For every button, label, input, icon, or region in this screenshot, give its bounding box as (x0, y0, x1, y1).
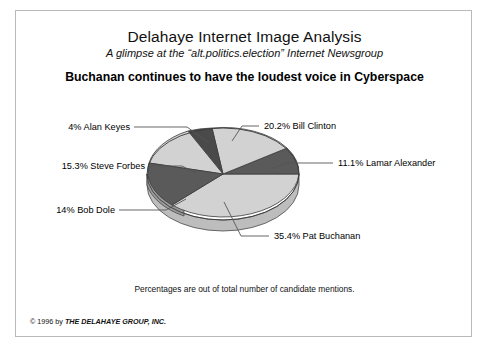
slide-page: Delahaye Internet Image Analysis A glimp… (0, 0, 490, 354)
pie-label-bill-clinton: 20.2% Bill Clinton (264, 121, 336, 131)
pie-label-bob-dole: 14% Bob Dole (56, 205, 115, 215)
chart-footnote: Percentages are out of total number of c… (16, 284, 473, 294)
pie-label-steve-forbes: 15.3% Steve Forbes (62, 161, 146, 171)
slide-frame: Delahaye Internet Image Analysis A glimp… (15, 10, 472, 337)
pie-label-alan-keyes: 4% Alan Keyes (68, 122, 130, 132)
copyright-prefix: © 1996 by (30, 317, 65, 326)
pie-label-lamar-alexander: 11.1% Lamar Alexander (338, 158, 435, 168)
copyright-company: THE DELAHAYE GROUP, INC. (65, 317, 166, 326)
pie-label-pat-buchanan: 35.4% Pat Buchanan (274, 231, 360, 241)
copyright-notice: © 1996 by THE DELAHAYE GROUP, INC. (30, 317, 166, 326)
